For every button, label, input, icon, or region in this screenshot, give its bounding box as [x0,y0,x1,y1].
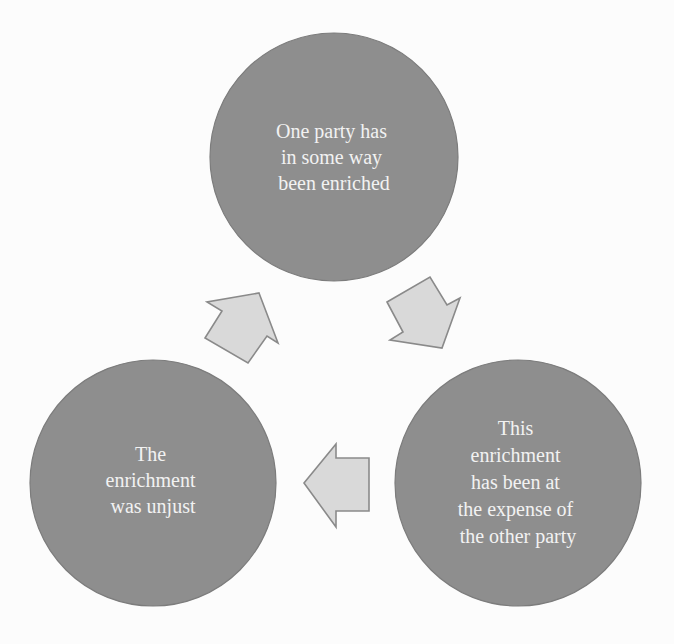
node-left-line-2: enrichment [106,469,196,491]
unjust-enrichment-cycle-diagram: One party has in some way been enriched … [0,0,674,644]
node-top-line-1: One party has [276,120,387,143]
node-right-line-2: enrichment [471,444,561,466]
node-left-line-3: was unjust [111,495,196,518]
node-left-line-1: The [135,443,166,465]
node-right-line-5: the other party [460,525,577,548]
node-right-line-3: has been at [471,471,560,493]
node-top-line-2: in some way [281,146,382,169]
node-top-text: One party has in some way been enriched [276,120,392,194]
arrow-up-right-icon [205,293,278,363]
node-right-line-1: This [498,417,534,439]
node-right-line-4: the expense of [458,498,574,521]
node-left: The enrichment was unjust [30,360,276,606]
arrow-left-icon [304,444,369,527]
node-right: This enrichment has been at the expense … [395,360,641,606]
node-top: One party has in some way been enriched [210,33,458,281]
arrow-down-right-icon [387,277,460,348]
node-top-line-3: been enriched [278,172,390,194]
